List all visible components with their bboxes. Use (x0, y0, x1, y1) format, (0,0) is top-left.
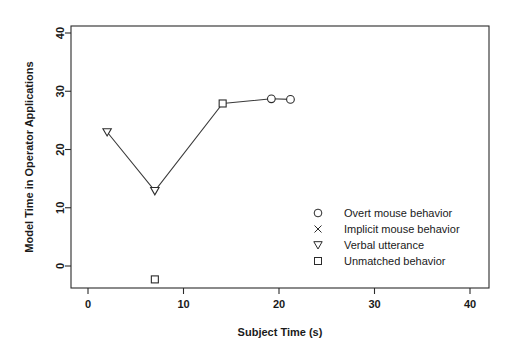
legend-label: Implicit mouse behavior (344, 223, 460, 235)
legend-label: Verbal utterance (344, 239, 424, 251)
data-point-square (151, 276, 158, 283)
x-tick-label: 40 (464, 298, 476, 310)
x-tick-label: 30 (368, 298, 380, 310)
y-tick-label: 30 (54, 85, 66, 97)
scatter-line-chart: 010203040010203040Subject Time (s)Model … (0, 0, 516, 357)
series-line (107, 99, 290, 191)
legend: Overt mouse behaviorImplicit mouse behav… (314, 207, 460, 267)
legend-label: Unmatched behavior (344, 255, 446, 267)
y-tick-label: 20 (54, 143, 66, 155)
y-tick-label: 10 (54, 202, 66, 214)
chart-container: 010203040010203040Subject Time (s)Model … (0, 0, 516, 357)
data-point-triangle-down (151, 188, 159, 195)
plot-frame (71, 26, 489, 288)
series-main-trajectory (103, 95, 294, 195)
legend-marker-triangle-down (314, 242, 322, 249)
data-point-circle (287, 96, 295, 104)
x-tick-label: 10 (177, 298, 189, 310)
x-axis-title: Subject Time (s) (238, 326, 323, 338)
x-tick-label: 20 (273, 298, 285, 310)
data-point-circle (268, 95, 276, 103)
x-tick-label: 0 (85, 298, 91, 310)
legend-label: Overt mouse behavior (344, 207, 453, 219)
y-tick-label: 0 (54, 263, 66, 269)
y-tick-label: 40 (54, 27, 66, 39)
data-point-square (219, 100, 226, 107)
series-outlier-marker (151, 276, 158, 283)
legend-marker-square (315, 258, 322, 265)
y-axis-title: Model Time in Operator Applications (23, 61, 35, 252)
legend-marker-circle (314, 209, 322, 217)
